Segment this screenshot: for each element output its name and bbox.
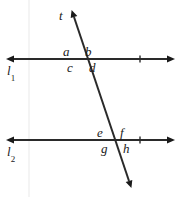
angle-label-c: c [67,61,73,74]
angle-label-a: a [63,45,70,58]
transversal-label-t: t [59,9,63,22]
angle-label-g: g [101,142,108,155]
line-label-l2: l2 [7,145,15,162]
transversal-line-t [74,17,129,181]
angle-label-h: h [123,142,130,155]
angle-label-d: d [89,61,96,74]
geometry-figure: t l1 l2 a b c d e f g h [0,0,178,197]
angle-label-e: e [97,126,103,139]
figure-canvas [0,0,178,197]
angle-label-f: f [120,126,124,139]
line-label-l1: l1 [7,64,15,81]
angle-label-b: b [85,45,92,58]
line-label-l1-subscript: 1 [11,73,16,83]
line-label-l2-subscript: 2 [11,154,16,164]
